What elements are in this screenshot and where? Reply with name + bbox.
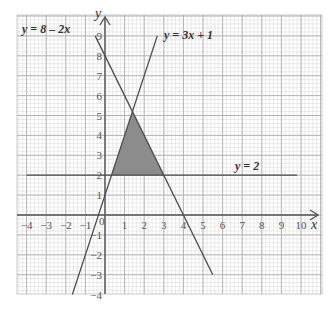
svg-text:3: 3 [97, 149, 103, 161]
svg-text:3: 3 [161, 219, 167, 231]
graph-figure: −4−3−2−112345678910−4−3−2−1123456789 y =… [0, 0, 335, 310]
major-grid [17, 15, 322, 294]
svg-text:10: 10 [296, 219, 308, 231]
svg-text:2: 2 [141, 219, 147, 231]
label-y-equals-3x-plus-1: y = 3x + 1 [162, 28, 213, 42]
svg-text:−2: −2 [60, 219, 72, 231]
svg-text:2: 2 [97, 169, 103, 181]
svg-text:1: 1 [122, 219, 128, 231]
minor-grid [17, 15, 322, 294]
svg-text:4: 4 [97, 129, 103, 141]
coordinate-grid: −4−3−2−112345678910−4−3−2−1123456789 y =… [0, 0, 335, 310]
y-axis-label: y [93, 6, 102, 21]
svg-text:−1: −1 [90, 229, 102, 241]
label-y-equals-8-minus-2x: y = 8 – 2x [20, 22, 70, 36]
svg-text:5: 5 [200, 219, 206, 231]
svg-text:4: 4 [181, 219, 187, 231]
svg-text:−4: −4 [21, 219, 33, 231]
svg-text:8: 8 [97, 50, 103, 62]
svg-text:−2: −2 [90, 249, 102, 261]
svg-text:6: 6 [97, 90, 103, 102]
svg-text:9: 9 [279, 219, 285, 231]
svg-text:6: 6 [220, 219, 226, 231]
label-y-equals-2: y = 2 [233, 159, 259, 173]
svg-text:1: 1 [97, 189, 103, 201]
x-axis-label: x [310, 217, 318, 232]
svg-text:8: 8 [259, 219, 265, 231]
svg-text:−3: −3 [40, 219, 52, 231]
origin-label: 0 [99, 215, 105, 227]
svg-text:7: 7 [97, 70, 103, 82]
svg-text:5: 5 [97, 110, 103, 122]
svg-text:9: 9 [97, 30, 103, 42]
svg-text:−3: −3 [90, 269, 102, 281]
svg-text:7: 7 [239, 219, 245, 231]
svg-text:−4: −4 [90, 289, 102, 301]
